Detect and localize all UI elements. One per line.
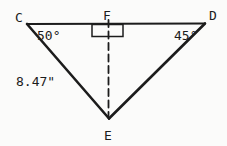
angle-label-d: 45° [174, 28, 197, 43]
side-length-label-ce: 8.47" [16, 74, 55, 89]
vertex-label-f: F [103, 8, 111, 23]
vertex-label-c: C [15, 10, 23, 25]
angle-label-c: 50° [37, 28, 60, 43]
right-angle-marker [92, 25, 123, 37]
vertex-label-d: D [209, 8, 217, 23]
triangle-diagram-svg: C F D E 50° 45° 8.47" [0, 0, 227, 146]
triangle-figure: C F D E 50° 45° 8.47" [0, 0, 227, 146]
vertex-label-e: E [104, 128, 112, 143]
